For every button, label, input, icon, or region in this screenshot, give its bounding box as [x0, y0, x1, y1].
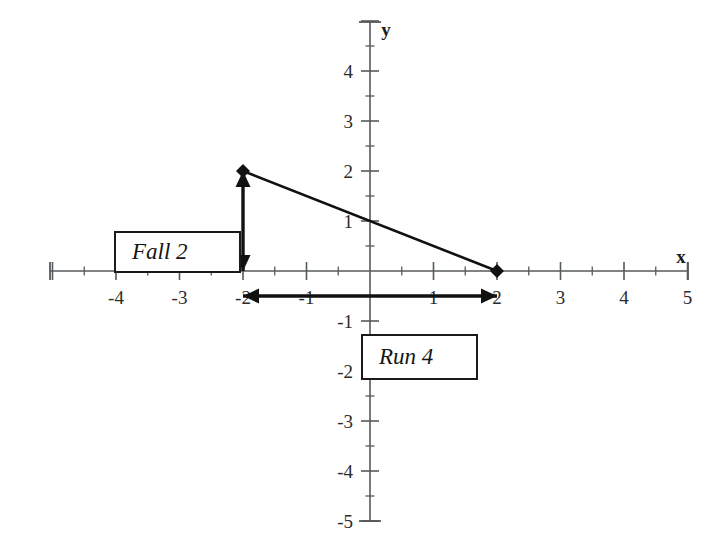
coordinate-plane-figure: -4-3-2-112345 4321-1-2-3-4-5 x y Fall 2 …: [0, 0, 722, 559]
x-tick-label: 3: [556, 287, 566, 308]
y-axis-label: y: [381, 19, 391, 40]
annotation-arrows-group: [236, 171, 498, 304]
y-tick-label: 2: [344, 161, 354, 182]
data-point-marker: [490, 264, 504, 278]
y-tick-label: -3: [337, 411, 353, 432]
x-axis-label: x: [676, 246, 686, 267]
y-tick-label: -5: [337, 511, 353, 532]
y-tick-label: -2: [337, 361, 353, 382]
x-tick-label: -3: [172, 287, 188, 308]
y-tick-label: -4: [337, 461, 353, 482]
x-tick-label: 5: [683, 287, 693, 308]
x-tick-label: -4: [108, 287, 124, 308]
run-callout-label: Run 4: [379, 344, 433, 370]
fall-callout-label: Fall 2: [132, 239, 188, 265]
y-tick-label: 4: [344, 61, 354, 82]
y-tick-label: -1: [337, 311, 353, 332]
plot-canvas: -4-3-2-112345 4321-1-2-3-4-5 x y: [0, 0, 722, 559]
x-tick-label: 4: [619, 287, 629, 308]
run-callout-box: Run 4: [361, 334, 478, 380]
fall-callout-box: Fall 2: [114, 231, 241, 273]
y-tick-label: 3: [344, 111, 354, 132]
